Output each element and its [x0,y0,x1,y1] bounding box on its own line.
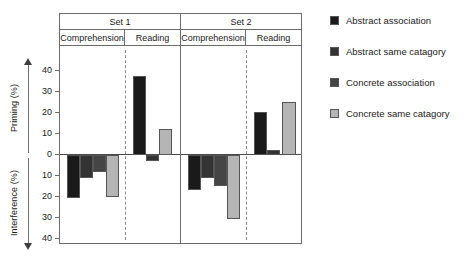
ytick-label-neg20: 20 [32,192,52,201]
priming-arrow-line [28,65,29,153]
ytick-label-neg30: 30 [32,213,52,222]
subgroup-header-set2-reading: Reading [245,29,302,46]
subgroup-header-set1-comprehension: Comprehension [59,29,125,46]
legend-label-abstract-same-catagory: Abstract same catagory [346,46,446,57]
bar-set2-comprehension-concrete-association [214,155,227,186]
bar-set1-comprehension-abstract-association [67,155,80,198]
bar-set1-reading-abstract-same-catagory [146,155,159,161]
bar-set1-reading-concrete-same-catagory [159,129,172,155]
y-axis-label-priming: Priming (%) [9,84,19,132]
legend-item-concrete-same-catagory[interactable]: Concrete same catagory [330,107,450,119]
legend-swatch-abstract-same-catagory [330,47,339,56]
bar-set2-comprehension-abstract-same-catagory [201,155,214,178]
bar-set1-comprehension-concrete-same-catagory [106,155,119,197]
legend-item-concrete-association[interactable]: Concrete association [330,76,435,88]
subgroup-header-set1-comprehension-label: Comprehension [60,33,124,43]
bar-chart-figure: Priming (%) Interference (%) 40 30 20 10… [0,0,465,259]
group-header-set-2: Set 2 [180,13,302,30]
subgroup-header-set2-comprehension-label: Comprehension [181,33,245,43]
set-divider-line [180,46,181,243]
legend-label-concrete-association: Concrete association [346,77,435,88]
legend-swatch-concrete-association [330,78,339,87]
ytick-label-30: 30 [32,87,52,96]
group-header-set-1: Set 1 [59,13,181,30]
ytick-label-20: 20 [32,108,52,117]
bar-set2-reading-abstract-association [254,112,267,155]
legend-label-concrete-same-catagory: Concrete same catagory [346,108,450,119]
legend-item-abstract-same-catagory[interactable]: Abstract same catagory [330,45,446,57]
interference-arrow-line [28,158,29,243]
ytick-label-40: 40 [32,66,52,75]
y-axis-label-interference-wrap: Interference (%) [6,157,22,249]
subgroup-header-set1-reading: Reading [124,29,181,46]
legend-item-abstract-association[interactable]: Abstract association [330,14,431,26]
bar-set2-comprehension-concrete-same-catagory [227,155,240,219]
y-axis-label-interference: Interference (%) [9,170,19,236]
subgroup-header-set2-comprehension: Comprehension [180,29,246,46]
y-axis-label-priming-wrap: Priming (%) [6,62,22,154]
group-header-set-2-label: Set 2 [230,17,251,27]
priming-arrow-head-icon [24,58,32,65]
bar-set2-reading-concrete-same-catagory [282,102,296,155]
interference-arrow-head-icon [24,243,32,250]
ytick-label-neg10: 10 [32,171,52,180]
bar-set2-comprehension-abstract-association [188,155,201,190]
set2-subgroup-dashed-divider [246,50,247,240]
legend-label-abstract-association: Abstract association [346,15,431,26]
ytick-label-0: 0 [32,150,52,159]
subgroup-header-set2-reading-label: Reading [257,33,291,43]
bar-set2-reading-abstract-same-catagory [267,150,280,155]
bar-set1-reading-abstract-association [133,76,146,155]
subgroup-header-set1-reading-label: Reading [136,33,170,43]
bar-set1-comprehension-abstract-same-catagory [80,155,93,178]
legend-swatch-concrete-same-catagory [330,109,339,118]
group-header-set-1-label: Set 1 [109,17,130,27]
ytick-label-10: 10 [32,129,52,138]
bar-set1-comprehension-concrete-association [93,155,106,172]
legend-swatch-abstract-association [330,16,339,25]
set1-subgroup-dashed-divider [125,50,126,240]
plot-area [59,46,302,244]
ytick-label-neg40: 40 [32,234,52,243]
legend: Abstract association Abstract same catag… [330,14,460,124]
